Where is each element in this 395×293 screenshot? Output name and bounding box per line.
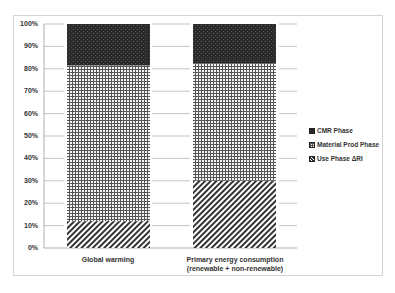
y-tick-label: 0% <box>14 244 38 252</box>
y-tick-label: 10% <box>14 222 38 230</box>
grid-swatch-icon <box>309 142 315 148</box>
y-tick-label: 100% <box>14 20 38 28</box>
bar-segment <box>67 65 150 221</box>
x-label-primary-energy: Primary energy consumption (renewable + … <box>180 255 290 273</box>
dark-dotted-swatch-icon <box>309 128 315 134</box>
y-tick-label: 50% <box>14 132 38 140</box>
y-tick-label: 60% <box>14 110 38 118</box>
y-tick-label: 20% <box>14 199 38 207</box>
y-tick-label: 30% <box>14 177 38 185</box>
bar-segment <box>193 63 276 181</box>
bar-segment <box>193 24 276 63</box>
y-tick-label: 90% <box>14 42 38 50</box>
diagonal-hatch-swatch-icon <box>309 156 315 162</box>
bar-segment <box>67 221 150 248</box>
x-label-line: Primary energy consumption <box>180 255 290 264</box>
legend-item-material-prod-phase: Material Prod Phase <box>309 141 379 148</box>
x-label-line: (renewable + non-renewable) <box>180 264 290 273</box>
bar-segment <box>193 181 276 248</box>
bar-segment <box>67 24 150 65</box>
y-tick-label: 70% <box>14 87 38 95</box>
legend-label: CMR Phase <box>317 127 353 134</box>
y-tick-label: 40% <box>14 154 38 162</box>
legend-label: Material Prod Phase <box>317 141 379 148</box>
y-tick-label: 80% <box>14 65 38 73</box>
x-label-global-warming: Global warming <box>62 255 154 264</box>
legend-item-use-phase: Use Phase ΔRI <box>309 155 363 162</box>
legend-item-cmr-phase: CMR Phase <box>309 127 353 134</box>
x-label-line: Global warming <box>82 256 135 263</box>
legend-label: Use Phase ΔRI <box>317 155 363 162</box>
